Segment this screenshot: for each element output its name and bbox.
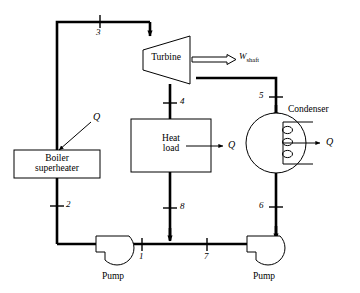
pump-left-body <box>96 236 134 265</box>
shaft-work-symbol: W <box>239 51 247 61</box>
stream-label-7: 7 <box>204 252 209 261</box>
shaft-work-arrow <box>192 55 236 65</box>
boiler-label-line2: superheater <box>14 164 100 174</box>
pump-right-body <box>247 236 285 265</box>
boiler-label: Boiler superheater <box>14 154 100 174</box>
stream-label-2: 2 <box>66 200 71 209</box>
turbine-label: Turbine <box>144 53 188 63</box>
condenser-heat-label: Q <box>326 137 333 148</box>
stream-label-5: 5 <box>259 91 264 100</box>
boiler-heat-label: Q <box>93 112 100 123</box>
stream-label-4: 4 <box>180 97 185 106</box>
diagram-canvas: Boiler superheater Q Turbine Wshaft Heat… <box>0 0 360 293</box>
pump-right-label: Pump <box>239 272 289 282</box>
stream-label-6: 6 <box>259 201 264 210</box>
heat-load-label-line2: load <box>131 144 211 154</box>
boiler-heat-arrow <box>59 122 91 150</box>
heat-load-label: Heat load <box>131 134 211 154</box>
stream-label-1: 1 <box>139 252 144 261</box>
condenser-label: Condenser <box>288 105 329 115</box>
pump-left-label: Pump <box>88 272 138 282</box>
shaft-work-subscript: shaft <box>247 56 260 63</box>
shaft-work-label: Wshaft <box>239 52 259 64</box>
pipe-stream-5 <box>196 78 276 113</box>
stream-label-3: 3 <box>96 28 101 37</box>
heat-load-heat-label: Q <box>228 140 235 151</box>
stream-label-8: 8 <box>180 202 185 211</box>
